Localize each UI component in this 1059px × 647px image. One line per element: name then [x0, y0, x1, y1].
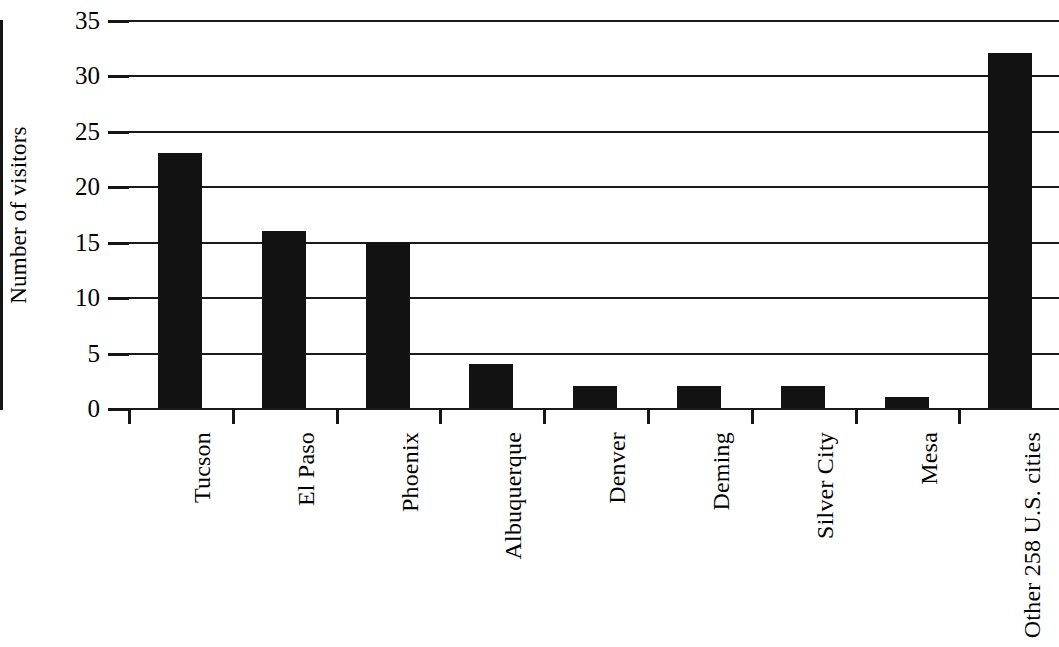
x-axis-category-label-text: Phoenix: [397, 432, 423, 512]
y-axis-tick-mark: [108, 75, 129, 78]
y-axis-tick-mark: [108, 186, 129, 189]
x-axis-category-label-text: Deming: [708, 432, 734, 511]
x-axis-tick-mark: [647, 408, 650, 424]
x-axis-tick-mark: [958, 408, 961, 424]
y-axis-tick-mark: [108, 297, 129, 300]
plot-area: [128, 20, 1059, 408]
x-axis-category-label: Mesa: [916, 379, 942, 432]
y-axis-tick-label: 25: [48, 118, 100, 143]
y-axis-tick-label: 35: [48, 8, 100, 33]
x-axis-category-label-text: Mesa: [916, 432, 942, 485]
x-axis-category-label: Albuquerque: [500, 305, 526, 433]
x-axis-category-label: Other 258 U.S. cities: [1019, 226, 1045, 432]
x-axis-category-label-text: Other 258 U.S. cities: [1019, 432, 1045, 638]
x-axis-category-label: Deming: [708, 353, 734, 432]
x-axis-category-label: Phoenix: [397, 352, 423, 432]
x-axis-tick-mark: [232, 408, 235, 424]
x-axis-tick-mark: [543, 408, 546, 424]
y-axis-tick-mark: [108, 242, 129, 245]
y-axis-tick-label: 5: [48, 340, 100, 365]
x-axis-category-label: Silver City: [812, 325, 838, 432]
y-axis-tick-label: 15: [48, 229, 100, 254]
y-axis-tick-label: 0: [48, 396, 100, 421]
gridline: [128, 75, 1059, 77]
gridline: [128, 20, 1059, 22]
x-axis-tick-mark: [439, 408, 442, 424]
x-axis-tick-mark: [855, 408, 858, 424]
y-axis-tick-mark: [108, 408, 129, 411]
y-axis-tick-label: 30: [48, 63, 100, 88]
x-axis-category-label-text: Silver City: [812, 432, 838, 539]
x-axis-category-label-text: Denver: [604, 432, 630, 504]
y-axis-tick-mark: [108, 20, 129, 23]
x-axis-tick-mark: [128, 408, 131, 424]
gridline: [128, 186, 1059, 188]
y-axis-tick-label: 10: [48, 285, 100, 310]
y-axis-tick-labels: 35302520151050: [38, 0, 100, 647]
y-axis-tick-mark: [108, 353, 129, 356]
x-axis-category-label-text: Tucson: [189, 432, 215, 503]
bar-chart-figure: Number of visitors 35302520151050 Tucson…: [0, 0, 1059, 647]
x-axis-tick-mark: [751, 408, 754, 424]
gridline: [128, 131, 1059, 133]
x-axis-category-label-text: Albuquerque: [500, 432, 526, 560]
x-axis-category-label: Denver: [604, 360, 630, 432]
y-axis-tick-mark: [108, 131, 129, 134]
x-axis-tick-mark: [336, 408, 339, 424]
y-axis-line: [0, 20, 3, 410]
y-axis-tick-label: 20: [48, 174, 100, 199]
x-axis-category-label: Tucson: [189, 361, 215, 432]
x-axis-category-label: El Paso: [293, 358, 319, 432]
y-axis-title: Number of visitors: [2, 0, 36, 430]
x-axis-category-label-text: El Paso: [293, 432, 319, 506]
